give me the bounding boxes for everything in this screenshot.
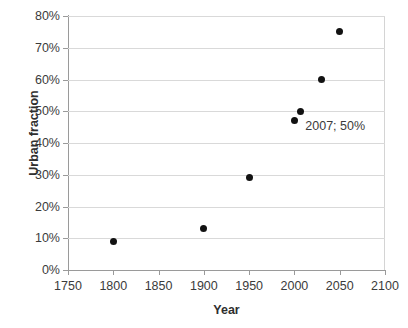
- x-axis-tick: [159, 270, 160, 275]
- y-axis-tick-label: 70%: [35, 41, 60, 55]
- x-axis-line: [68, 270, 386, 271]
- scatter-chart: Urban fraction 0%10%20%30%40%50%60%70%80…: [0, 0, 408, 328]
- gridline-horizontal: [68, 16, 385, 17]
- y-axis-tick: [63, 48, 68, 49]
- x-axis-tick-label: 2100: [371, 279, 399, 293]
- y-axis-tick: [63, 16, 68, 17]
- y-axis-tick-label: 10%: [35, 231, 60, 245]
- data-point: [297, 108, 304, 115]
- y-axis-tick: [63, 207, 68, 208]
- data-point: [291, 117, 298, 124]
- x-axis-tick: [385, 270, 386, 275]
- data-point: [246, 174, 253, 181]
- plot-area: 0%10%20%30%40%50%60%70%80%17501800185019…: [68, 16, 385, 270]
- y-axis-tick: [63, 80, 68, 81]
- x-axis-tick: [113, 270, 114, 275]
- y-axis-tick: [63, 111, 68, 112]
- x-axis-tick: [294, 270, 295, 275]
- y-axis-tick-label: 40%: [35, 136, 60, 150]
- x-axis-tick-label: 1800: [99, 279, 127, 293]
- y-axis-tick-label: 20%: [35, 200, 60, 214]
- data-point: [318, 76, 325, 83]
- x-axis-tick-label: 2050: [326, 279, 354, 293]
- x-axis-tick: [340, 270, 341, 275]
- x-axis-tick-label: 1850: [145, 279, 173, 293]
- x-axis-tick-label: 1950: [235, 279, 263, 293]
- data-label-annotation: 2007; 50%: [305, 119, 365, 133]
- y-axis-tick-label: 50%: [35, 104, 60, 118]
- gridline-horizontal: [68, 111, 385, 112]
- gridline-horizontal: [68, 143, 385, 144]
- data-point: [336, 28, 343, 35]
- x-axis-tick: [249, 270, 250, 275]
- y-axis-tick-label: 30%: [35, 168, 60, 182]
- gridline-horizontal: [68, 175, 385, 176]
- y-axis-tick-label: 80%: [35, 9, 60, 23]
- gridline-horizontal: [68, 80, 385, 81]
- x-axis-tick: [68, 270, 69, 275]
- y-axis-tick: [63, 143, 68, 144]
- gridline-horizontal: [68, 48, 385, 49]
- x-axis-tick: [204, 270, 205, 275]
- x-axis-title: Year: [68, 303, 385, 317]
- y-axis-tick-label: 60%: [35, 73, 60, 87]
- gridline-horizontal: [68, 207, 385, 208]
- x-axis-tick-label: 1750: [54, 279, 82, 293]
- y-axis-tick: [63, 238, 68, 239]
- x-axis-tick-label: 1900: [190, 279, 218, 293]
- y-axis-tick: [63, 175, 68, 176]
- data-point: [200, 225, 207, 232]
- data-point: [110, 238, 117, 245]
- x-axis-tick-label: 2000: [281, 279, 309, 293]
- y-axis-tick-label: 0%: [42, 263, 60, 277]
